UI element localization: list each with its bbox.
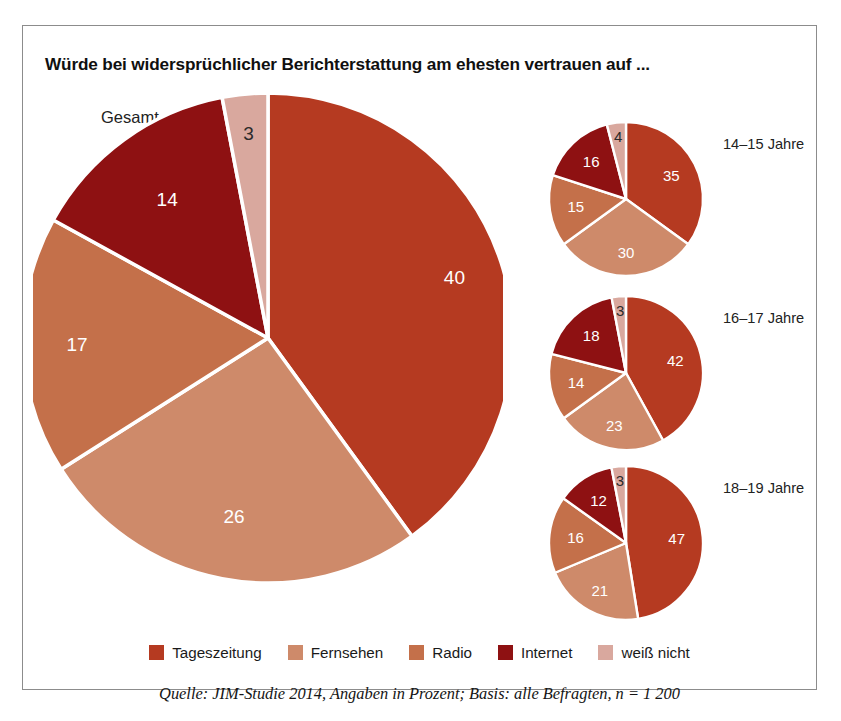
chart-age-16-17: 422314183 16–17 Jahre	[541, 288, 841, 458]
legend-item-label: Tageszeitung	[172, 644, 262, 661]
slice-value-label: 42	[667, 352, 684, 369]
chart-legend: Tageszeitung Fernsehen Radio Internet we…	[23, 644, 816, 661]
slice-value-label: 21	[591, 582, 608, 599]
slice-value-label: 16	[583, 153, 600, 170]
slice-value-label: 12	[590, 492, 607, 509]
chart-gesamt: Gesamt 402617143	[33, 88, 503, 588]
legend-item-internet: Internet	[498, 644, 573, 661]
chart-age-18-19: 472116123 18–19 Jahre	[541, 458, 841, 628]
slice-value-label: 3	[243, 123, 254, 144]
slice-value-label: 26	[223, 506, 244, 527]
legend-swatch-icon	[598, 645, 613, 660]
source-note: Quelle: JIM-Studie 2014, Angaben in Proz…	[23, 684, 816, 704]
chart-age-16-17-label: 16–17 Jahre	[723, 310, 804, 326]
legend-swatch-icon	[149, 645, 164, 660]
chart-age-18-19-label: 18–19 Jahre	[723, 480, 804, 496]
slice-value-label: 16	[567, 529, 584, 546]
slice-value-label: 18	[583, 327, 600, 344]
slice-value-label: 40	[444, 267, 465, 288]
slice-value-label: 3	[616, 472, 624, 489]
pie-slice	[626, 466, 703, 619]
legend-swatch-icon	[498, 645, 513, 660]
legend-item-radio: Radio	[409, 644, 472, 661]
legend-swatch-icon	[409, 645, 424, 660]
legend-item-tageszeitung: Tageszeitung	[149, 644, 262, 661]
slice-value-label: 30	[618, 244, 635, 261]
legend-item-label: weiß nicht	[621, 644, 689, 661]
slice-value-label: 14	[157, 189, 179, 210]
chart-age-14-15: 353015164 14–15 Jahre	[541, 114, 841, 284]
chart-age-14-15-label: 14–15 Jahre	[723, 136, 804, 152]
page-title: Würde bei widersprüchlicher Berichtersta…	[45, 54, 775, 75]
slice-value-label: 23	[606, 417, 623, 434]
legend-swatch-icon	[288, 645, 303, 660]
slice-value-label: 14	[568, 374, 585, 391]
legend-item-label: Internet	[521, 644, 573, 661]
slice-value-label: 35	[663, 167, 680, 184]
figure-frame: Würde bei widersprüchlicher Berichtersta…	[22, 25, 817, 690]
legend-item-label: Radio	[432, 644, 472, 661]
pie-gesamt: 402617143	[33, 88, 503, 588]
legend-item-fernsehen: Fernsehen	[288, 644, 384, 661]
slice-value-label: 47	[668, 530, 685, 547]
slice-value-label: 3	[616, 302, 624, 319]
slice-value-label: 15	[567, 198, 584, 215]
slice-value-label: 4	[614, 128, 622, 145]
slice-value-label: 17	[66, 334, 87, 355]
legend-item-label: Fernsehen	[311, 644, 384, 661]
legend-item-weiss-nicht: weiß nicht	[598, 644, 689, 661]
